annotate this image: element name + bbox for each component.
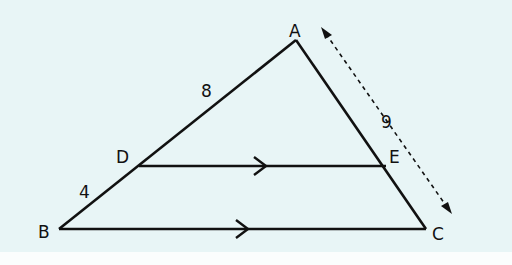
length-label-ad: 8 <box>201 81 212 101</box>
vertex-label-d: D <box>116 147 129 167</box>
side-ac <box>296 40 426 229</box>
arrowhead-up-icon <box>321 27 332 39</box>
diagram-canvas: A B C D E 8 4 9 <box>0 0 512 265</box>
length-label-db: 4 <box>79 182 90 202</box>
side-ab <box>59 40 296 229</box>
vertex-label-e: E <box>389 147 400 167</box>
triangle-diagram: A B C D E 8 4 9 <box>0 0 512 265</box>
vertex-label-a: A <box>289 21 301 41</box>
vertex-label-c: C <box>432 224 444 244</box>
vertex-label-b: B <box>38 222 50 242</box>
length-label-ac: 9 <box>381 112 392 132</box>
arrowhead-down-icon <box>441 202 452 214</box>
